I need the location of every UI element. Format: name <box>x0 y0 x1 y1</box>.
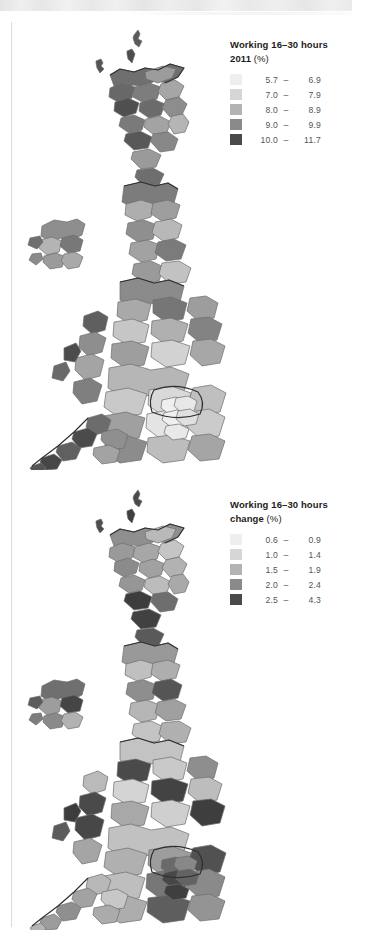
legend-swatch <box>230 89 242 100</box>
legend-title-line2: 2011 <box>230 53 251 64</box>
legend-swatch <box>230 594 242 605</box>
legend-row[interactable]: 2.0 – 2.4 <box>230 577 364 592</box>
legend-swatch <box>230 564 242 575</box>
legend-row[interactable]: 2.5 – 4.3 <box>230 592 364 607</box>
legend-range-dash: – <box>278 105 294 115</box>
legend-range-dash: – <box>278 535 294 545</box>
legend-swatch <box>230 104 242 115</box>
legend-class-list: 0.6 – 0.9 1.0 – 1.4 1.5 – 1.9 2.0 – 2.4 <box>230 532 364 607</box>
legend-row[interactable]: 1.5 – 1.9 <box>230 562 364 577</box>
cartogram-cells <box>28 490 226 930</box>
legend-row[interactable]: 10.0 – 11.7 <box>230 132 364 147</box>
legend-class-list: 5.7 – 6.9 7.0 – 7.9 8.0 – 8.9 9.0 – 9.9 <box>230 72 364 147</box>
legend-range-high: 1.9 <box>294 565 321 575</box>
legend-swatch <box>230 549 242 560</box>
legend-range-high: 9.9 <box>294 120 321 130</box>
legend-range-low: 8.0 <box>251 105 278 115</box>
legend-swatch <box>230 134 242 145</box>
region-wales <box>52 311 108 404</box>
legend-title-line1: Working 16–30 hours <box>230 499 328 510</box>
legend-swatch <box>230 119 242 130</box>
legend-row[interactable]: 0.6 – 0.9 <box>230 532 364 547</box>
legend-row[interactable]: 1.0 – 1.4 <box>230 547 364 562</box>
region-scotland-north <box>109 524 189 647</box>
legend-range-low: 2.5 <box>251 595 278 605</box>
legend-range-low: 1.5 <box>251 565 278 575</box>
legend-range-low: 0.6 <box>251 535 278 545</box>
scanned-page-top-bar <box>0 0 352 11</box>
legend-title-line2: change <box>230 513 264 524</box>
legend-row[interactable]: 9.0 – 9.9 <box>230 117 364 132</box>
legend-range-dash: – <box>278 90 294 100</box>
legend-range-low: 5.7 <box>251 75 278 85</box>
island-group-north <box>96 30 142 73</box>
island-group-north <box>96 490 142 533</box>
region-scotland-central <box>122 642 191 744</box>
legend-swatch <box>230 534 242 545</box>
legend-range-dash: – <box>278 75 294 85</box>
region-northern-ireland <box>28 679 85 729</box>
legend-range-low: 7.0 <box>251 90 278 100</box>
legend-title-line1: Working 16–30 hours <box>230 39 328 50</box>
legend-range-dash: – <box>278 135 294 145</box>
legend-range-high: 4.3 <box>294 595 321 605</box>
region-wales <box>52 771 108 864</box>
region-scotland-central <box>122 182 191 284</box>
legend-range-low: 10.0 <box>251 135 278 145</box>
scanned-page-top-bar-fade <box>120 12 352 15</box>
uk-cartogram-svg-2011[interactable] <box>14 18 236 470</box>
legend-row[interactable]: 8.0 – 8.9 <box>230 102 364 117</box>
legend-working-change: Working 16–30 hourschange (%) 0.6 – 0.9 … <box>230 498 364 607</box>
map-working-change[interactable] <box>14 478 236 930</box>
legend-working-2011: Working 16–30 hours2011 (%) 5.7 – 6.9 7.… <box>230 38 364 147</box>
map-panel-working-2011: Working 16–30 hours2011 (%) 5.7 – 6.9 7.… <box>0 18 367 478</box>
legend-row[interactable]: 5.7 – 6.9 <box>230 72 364 87</box>
map-panel-working-change: Working 16–30 hourschange (%) 0.6 – 0.9 … <box>0 478 367 932</box>
legend-range-high: 0.9 <box>294 535 321 545</box>
legend-range-dash: – <box>278 565 294 575</box>
legend-range-low: 9.0 <box>251 120 278 130</box>
legend-swatch <box>230 579 242 590</box>
region-northern-ireland <box>28 219 85 269</box>
legend-range-dash: – <box>278 550 294 560</box>
region-england-north <box>111 278 225 368</box>
legend-range-high: 8.9 <box>294 105 321 115</box>
legend-range-dash: – <box>278 595 294 605</box>
legend-title: Working 16–30 hourschange (%) <box>230 498 364 525</box>
legend-range-high: 11.7 <box>294 135 321 145</box>
region-england-north <box>111 738 225 828</box>
legend-range-high: 1.4 <box>294 550 321 560</box>
map-working-2011[interactable] <box>14 18 236 470</box>
legend-range-high: 6.9 <box>294 75 321 85</box>
legend-title-unit: (%) <box>254 53 269 64</box>
cartogram-cells <box>28 30 226 470</box>
uk-cartogram-svg-change[interactable] <box>14 478 236 930</box>
legend-range-high: 7.9 <box>294 90 321 100</box>
legend-swatch <box>230 74 242 85</box>
legend-title-unit: (%) <box>267 513 282 524</box>
legend-range-low: 1.0 <box>251 550 278 560</box>
legend-title: Working 16–30 hours2011 (%) <box>230 38 364 65</box>
region-scotland-north <box>109 64 189 187</box>
legend-range-high: 2.4 <box>294 580 321 590</box>
legend-range-dash: – <box>278 580 294 590</box>
legend-range-dash: – <box>278 120 294 130</box>
legend-range-low: 2.0 <box>251 580 278 590</box>
legend-row[interactable]: 7.0 – 7.9 <box>230 87 364 102</box>
